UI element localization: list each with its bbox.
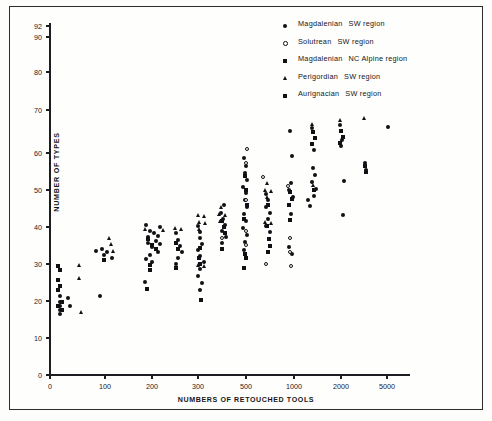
data-point bbox=[266, 250, 270, 254]
data-point bbox=[203, 221, 207, 225]
x-tick-2000: 2000 bbox=[318, 382, 364, 391]
data-point bbox=[148, 253, 152, 257]
data-point bbox=[268, 211, 272, 215]
data-point bbox=[111, 249, 115, 253]
data-point bbox=[338, 123, 342, 127]
data-point bbox=[174, 266, 178, 270]
data-point bbox=[245, 233, 249, 237]
data-point bbox=[306, 198, 310, 202]
marker-glyph bbox=[283, 94, 287, 98]
data-point bbox=[242, 156, 246, 160]
data-point bbox=[200, 281, 204, 285]
data-point bbox=[60, 308, 64, 312]
x-tick-100: 100 bbox=[82, 382, 128, 391]
data-point bbox=[342, 179, 346, 183]
data-point bbox=[176, 256, 180, 260]
data-point bbox=[288, 218, 292, 222]
y-tick-20: 20 bbox=[16, 297, 42, 306]
data-point bbox=[173, 226, 177, 230]
legend-label: MagdalenianNC Alpine region bbox=[298, 54, 407, 63]
data-point bbox=[58, 294, 62, 298]
data-point bbox=[289, 212, 293, 216]
data-point bbox=[94, 249, 98, 253]
data-point bbox=[311, 130, 315, 134]
y-tick-0: 0 bbox=[16, 371, 42, 380]
data-point bbox=[148, 263, 152, 267]
y-tick-40: 40 bbox=[16, 223, 42, 232]
data-point bbox=[263, 220, 267, 224]
data-point bbox=[290, 154, 294, 158]
data-point bbox=[220, 241, 224, 245]
legend-marker-open-circle-icon bbox=[283, 41, 288, 46]
data-point bbox=[196, 213, 200, 217]
data-point bbox=[244, 188, 248, 192]
data-point bbox=[242, 217, 246, 221]
y-tick-50: 50 bbox=[16, 186, 42, 195]
legend-item-solutrean: SolutreanSW region bbox=[283, 37, 483, 55]
data-point bbox=[56, 278, 60, 282]
data-point bbox=[310, 122, 314, 126]
data-point bbox=[58, 268, 62, 272]
data-point bbox=[60, 300, 64, 304]
legend-culture-name: Aurignacian bbox=[298, 89, 339, 98]
data-point bbox=[364, 170, 368, 174]
legend-label: PerigordianSW region bbox=[298, 72, 380, 81]
data-point bbox=[77, 263, 81, 267]
x-tick-300: 300 bbox=[175, 382, 221, 391]
data-point bbox=[174, 241, 178, 245]
data-point bbox=[197, 227, 201, 231]
marker-glyph bbox=[283, 76, 287, 80]
data-point bbox=[312, 148, 316, 152]
data-point bbox=[269, 221, 273, 225]
data-point bbox=[312, 194, 316, 198]
data-point bbox=[341, 213, 345, 217]
legend-item-perigordian: PerigordianSW region bbox=[283, 72, 483, 90]
legend-region-name: SW region bbox=[344, 72, 380, 81]
data-point bbox=[263, 188, 267, 192]
data-point bbox=[266, 203, 270, 207]
data-point bbox=[242, 212, 246, 216]
figure-root: NUMBER OF TYPES NUMBERS OF RETOUCHED TOO… bbox=[0, 0, 492, 421]
data-point bbox=[310, 142, 314, 146]
data-point bbox=[144, 257, 148, 261]
legend-item-magdalenian: MagdalenianNC Alpine region bbox=[283, 54, 483, 72]
data-point bbox=[148, 268, 152, 272]
data-point bbox=[269, 189, 273, 193]
data-point bbox=[268, 230, 272, 234]
y-tick-80: 80 bbox=[16, 68, 42, 77]
data-point bbox=[143, 227, 147, 231]
legend-culture-name: Magdalenian bbox=[298, 19, 343, 28]
data-point bbox=[265, 195, 269, 199]
data-point bbox=[79, 310, 83, 314]
data-point bbox=[217, 212, 221, 216]
legend-label: SolutreanSW region bbox=[298, 37, 374, 46]
data-point bbox=[107, 236, 111, 240]
data-point bbox=[58, 284, 62, 288]
legend-region-name: NC Alpine region bbox=[349, 54, 408, 63]
legend-region-name: SW region bbox=[345, 89, 381, 98]
data-point bbox=[198, 262, 202, 266]
data-point bbox=[202, 264, 206, 268]
data-point bbox=[179, 227, 183, 231]
legend-label: AurignacianSW region bbox=[298, 89, 382, 98]
data-point bbox=[161, 228, 165, 232]
data-point bbox=[290, 197, 294, 201]
data-point bbox=[176, 247, 180, 251]
y-axis-label: NUMBER OF TYPES bbox=[53, 112, 61, 232]
data-point bbox=[218, 219, 222, 223]
legend-marker-triangle-icon bbox=[283, 76, 287, 80]
data-point bbox=[199, 298, 203, 302]
data-point bbox=[220, 247, 224, 251]
data-point bbox=[198, 246, 202, 250]
data-point bbox=[265, 181, 269, 185]
data-point bbox=[386, 125, 390, 129]
data-point bbox=[338, 118, 342, 122]
data-point bbox=[102, 258, 106, 262]
data-point bbox=[288, 129, 292, 133]
data-point bbox=[198, 236, 202, 240]
legend-culture-name: Perigordian bbox=[298, 72, 338, 81]
legend: MagdalenianSW regionSolutreanSW regionMa… bbox=[283, 19, 483, 107]
marker-glyph bbox=[283, 41, 288, 46]
data-point bbox=[105, 250, 109, 254]
data-point bbox=[312, 188, 316, 192]
